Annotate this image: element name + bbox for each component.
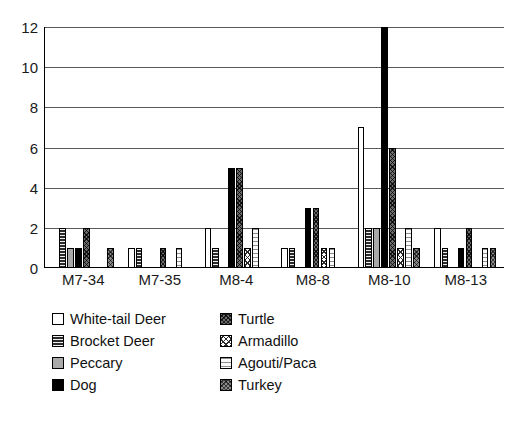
x-tick-label: M8-8	[275, 272, 352, 287]
y-tick-label: 6	[4, 140, 38, 155]
bar	[313, 208, 320, 268]
x-tick-label: M7-34	[45, 272, 122, 287]
legend-label: Turkey	[238, 378, 282, 393]
bar	[107, 248, 114, 268]
y-tick-label: 4	[4, 180, 38, 195]
bar	[365, 228, 372, 268]
bar	[458, 248, 465, 268]
legend-entry: Dog	[52, 378, 220, 393]
x-tick-label: M8-4	[198, 272, 275, 287]
legend-label: Turtle	[238, 312, 275, 327]
y-axis: 024681012	[0, 27, 38, 268]
bar	[289, 248, 296, 268]
y-tick-label: 10	[4, 60, 38, 75]
bar	[329, 248, 336, 268]
bar	[205, 228, 212, 268]
bar	[228, 168, 235, 268]
bar-chart: 024681012 M7-34M7-35M8-4M8-8M8-10M8-13 W…	[0, 0, 515, 428]
bar	[490, 248, 497, 268]
bar	[482, 248, 489, 268]
legend-entry: Turtle	[220, 312, 370, 327]
legend-swatch-icon	[220, 379, 232, 391]
y-tick-label: 12	[4, 20, 38, 35]
bars-layer	[45, 27, 504, 268]
bar	[434, 228, 441, 268]
bar	[305, 208, 312, 268]
y-tick-label: 8	[4, 100, 38, 115]
legend-entry: Turkey	[220, 378, 370, 393]
legend-swatch-icon	[52, 335, 64, 347]
legend-label: White-tail Deer	[70, 312, 166, 327]
legend-swatch-icon	[220, 335, 232, 347]
legend-swatch-icon	[52, 313, 64, 325]
legend-label: Peccary	[70, 356, 122, 371]
legend-entry: Brocket Deer	[52, 334, 220, 349]
bar	[236, 168, 243, 268]
legend: White-tail DeerTurtleBrocket DeerArmadil…	[52, 308, 352, 396]
legend-entry: Armadillo	[220, 334, 370, 349]
bar	[59, 228, 66, 268]
x-axis: M7-34M7-35M8-4M8-8M8-10M8-13	[45, 272, 504, 294]
legend-swatch-icon	[52, 379, 64, 391]
bar	[83, 228, 90, 268]
bar	[442, 248, 449, 268]
bar	[381, 27, 388, 268]
bar	[358, 127, 365, 268]
legend-label: Brocket Deer	[70, 334, 155, 349]
y-tick-label: 0	[4, 261, 38, 276]
bar	[136, 248, 143, 268]
y-tick-label: 2	[4, 220, 38, 235]
legend-swatch-icon	[220, 313, 232, 325]
bar	[466, 228, 473, 268]
bar	[389, 148, 396, 269]
legend-swatch-icon	[220, 357, 232, 369]
bar	[244, 248, 251, 268]
bar	[321, 248, 328, 268]
x-tick-label: M8-13	[428, 272, 505, 287]
bar	[128, 248, 135, 268]
legend-entry: Peccary	[52, 356, 220, 371]
x-tick-label: M8-10	[351, 272, 428, 287]
bar	[373, 228, 380, 268]
bar	[67, 248, 74, 268]
legend-label: Agouti/Paca	[238, 356, 316, 371]
bar	[405, 228, 412, 268]
bar	[413, 248, 420, 268]
legend-swatch-icon	[52, 357, 64, 369]
bar	[397, 248, 404, 268]
bar	[281, 248, 288, 268]
legend-label: Dog	[70, 378, 97, 393]
bar	[212, 248, 219, 268]
bar	[252, 228, 259, 268]
legend-entry: White-tail Deer	[52, 312, 220, 327]
x-tick-label: M7-35	[122, 272, 199, 287]
legend-label: Armadillo	[238, 334, 298, 349]
bar	[75, 248, 82, 268]
legend-entry: Agouti/Paca	[220, 356, 370, 371]
bar	[160, 248, 167, 268]
bar	[176, 248, 183, 268]
